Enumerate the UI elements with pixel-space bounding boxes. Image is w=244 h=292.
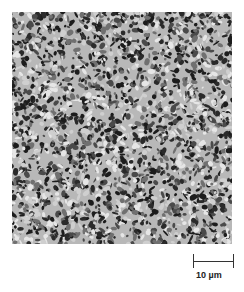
grain-texture xyxy=(12,12,232,244)
micrograph-image xyxy=(12,12,232,244)
scale-bar-right-tick xyxy=(233,254,234,268)
scale-bar-label: 10 µm xyxy=(196,270,222,280)
scale-bar xyxy=(193,254,235,268)
scale-bar-line xyxy=(193,261,233,262)
